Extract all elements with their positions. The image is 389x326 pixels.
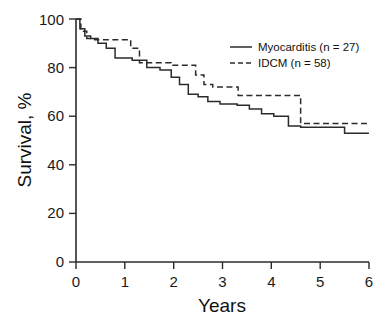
y-tick-label: 20 <box>47 204 64 221</box>
chart-legend: Myocarditis (n = 27) IDCM (n = 58) <box>230 41 359 69</box>
y-axis-title: Survival, % <box>14 92 35 187</box>
x-axis-tick-labels: 0 1 2 3 4 5 6 <box>72 273 373 290</box>
series-line-idcm <box>76 19 369 123</box>
x-tick-label: 2 <box>170 273 178 290</box>
x-tick-label: 3 <box>218 273 226 290</box>
x-tick-label: 4 <box>267 273 275 290</box>
x-axis-ticks <box>76 262 369 269</box>
kaplan-meier-plot: 0 20 40 60 80 100 0 1 2 3 4 5 6 <box>0 0 389 326</box>
y-tick-label: 60 <box>47 107 64 124</box>
y-tick-label: 80 <box>47 59 64 76</box>
x-tick-label: 0 <box>72 273 80 290</box>
x-tick-label: 6 <box>365 273 373 290</box>
y-axis-tick-labels: 0 20 40 60 80 100 <box>39 11 64 271</box>
series-line-myocarditis <box>76 19 369 133</box>
y-tick-label: 40 <box>47 156 64 173</box>
y-tick-label: 100 <box>39 11 64 28</box>
x-tick-label: 1 <box>121 273 129 290</box>
survival-curve-figure: 0 20 40 60 80 100 0 1 2 3 4 5 6 <box>0 0 389 326</box>
y-tick-label: 0 <box>56 253 64 270</box>
x-tick-label: 5 <box>316 273 324 290</box>
legend-label-myocarditis: Myocarditis (n = 27) <box>258 41 359 53</box>
legend-label-idcm: IDCM (n = 58) <box>258 57 331 69</box>
y-axis-ticks <box>69 19 76 262</box>
x-axis-title: Years <box>198 295 246 316</box>
